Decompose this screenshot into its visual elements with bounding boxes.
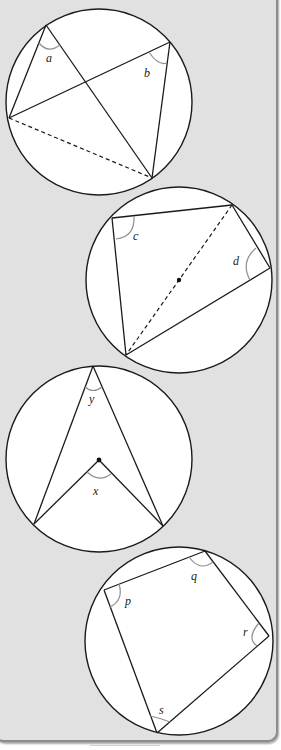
- angle-label-a: a: [46, 51, 52, 65]
- angle-label-x: x: [92, 484, 99, 498]
- centre-point: [97, 458, 102, 463]
- angle-label-d: d: [233, 254, 240, 268]
- angle-label-s: s: [159, 703, 164, 717]
- angle-label-r: r: [243, 625, 248, 639]
- diagram-cyclic-quadrilateral: p q r s: [85, 547, 273, 735]
- diagram-same-segment: a b: [6, 9, 192, 195]
- circle-theorems-diagram: a b c d y x p: [0, 0, 281, 750]
- angle-label-y: y: [88, 392, 95, 406]
- angle-label-c: c: [133, 229, 139, 243]
- diagram-semicircle: c d: [86, 187, 272, 373]
- diagram-angle-at-centre: y x: [6, 366, 192, 552]
- angle-label-b: b: [144, 66, 150, 80]
- circle-4: [85, 547, 273, 735]
- angle-label-q: q: [191, 569, 197, 583]
- centre-point: [177, 278, 181, 282]
- angle-label-p: p: [124, 594, 131, 608]
